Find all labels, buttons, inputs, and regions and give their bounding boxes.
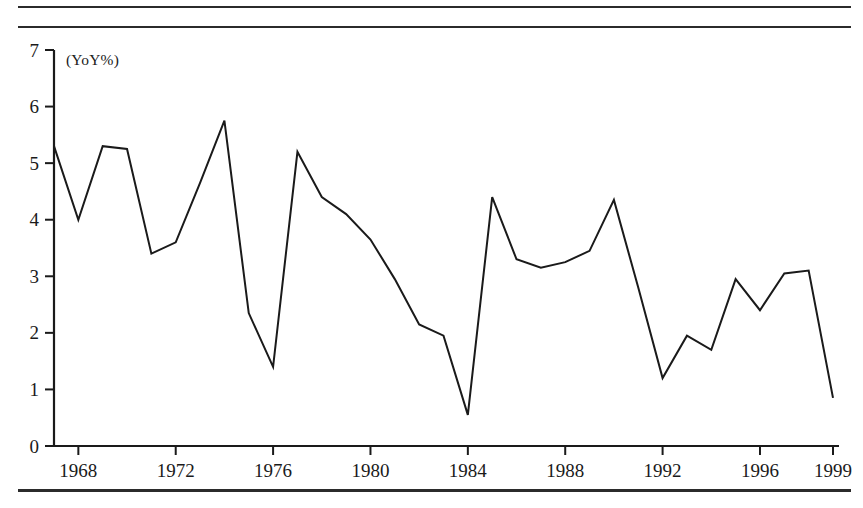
y-tick-label: 3 [30, 266, 40, 287]
y-tick-label: 2 [30, 322, 40, 343]
y-tick-label: 0 [30, 436, 40, 457]
x-tick-label: 1976 [254, 460, 292, 481]
x-axis-ticks: 196819721976198019841988199219961999 [59, 446, 852, 481]
x-tick-label: 1988 [546, 460, 584, 481]
x-tick-label: 1984 [449, 460, 488, 481]
y-tick-label: 1 [30, 379, 40, 400]
y-tick-label: 7 [30, 40, 40, 61]
top-rule-inner [18, 26, 851, 28]
y-axis-ticks: 01234567 [30, 40, 55, 457]
top-rule-outer [18, 6, 851, 8]
chart-axes [54, 50, 839, 446]
y-tick-label: 5 [30, 153, 40, 174]
axis-unit-caption: (YoY%) [66, 51, 119, 69]
chart-plot-area: 0123456719681972197619801984198819921996… [0, 36, 863, 482]
x-tick-label: 1996 [741, 460, 779, 481]
y-tick-label: 4 [30, 209, 40, 230]
y-tick-label: 6 [30, 96, 40, 117]
data-line-yoy- [54, 121, 833, 415]
x-tick-label: 1999 [814, 460, 852, 481]
chart-page: 0123456719681972197619801984198819921996… [0, 0, 863, 508]
x-tick-label: 1968 [59, 460, 97, 481]
line-chart: 0123456719681972197619801984198819921996… [0, 36, 863, 482]
bottom-rule [18, 489, 851, 492]
x-tick-label: 1972 [157, 460, 195, 481]
x-tick-label: 1980 [351, 460, 389, 481]
x-tick-label: 1992 [644, 460, 682, 481]
